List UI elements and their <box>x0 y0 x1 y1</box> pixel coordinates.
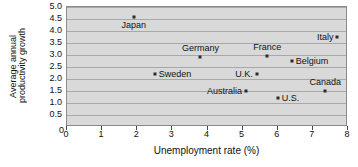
scatter-chart: Average annual productivity growth 0.51.… <box>0 0 358 167</box>
y-axis-tick-label: 4.0 <box>49 26 62 35</box>
y-axis-tick-label: 2.5 <box>49 62 62 71</box>
y-axis-tick-label: 0.5 <box>49 110 62 119</box>
gridline <box>67 103 346 104</box>
data-point-label: Japan <box>121 21 146 30</box>
y-axis-zero-label: 0 <box>36 126 64 135</box>
data-point <box>199 56 202 59</box>
x-axis-tick-label: 5 <box>239 130 244 139</box>
data-point-label: U.S. <box>282 94 300 103</box>
gridline <box>67 7 346 8</box>
y-axis-tick-label: 3.5 <box>49 38 62 47</box>
data-point <box>276 97 279 100</box>
x-axis-tick-label: 1 <box>99 130 104 139</box>
gridline <box>67 79 346 80</box>
data-point-label: Australia <box>207 87 242 96</box>
x-axis-tick-labels: 012345678 <box>66 130 347 142</box>
data-point <box>255 73 258 76</box>
x-axis-tick-label: 0 <box>63 130 68 139</box>
data-point <box>336 36 339 39</box>
plot-area: JapanSwedenGermanyAustraliaU.K.FranceU.S… <box>66 6 347 126</box>
y-axis-tick-label: 3.0 <box>49 50 62 59</box>
x-axis-tick-label: 4 <box>204 130 209 139</box>
data-point-label: Canada <box>309 78 341 87</box>
y-axis-tick-label: 4.5 <box>49 14 62 23</box>
data-point <box>324 90 327 93</box>
y-axis-tick-label: 5.0 <box>49 2 62 11</box>
data-point-label: Italy <box>317 33 334 42</box>
data-point-label: Belgium <box>296 57 329 66</box>
gridline <box>67 31 346 32</box>
x-axis-tick-label: 8 <box>344 130 349 139</box>
data-point <box>290 60 293 63</box>
data-point-label: U.K. <box>235 70 253 79</box>
y-axis-title-line-2: productivity growth <box>18 28 27 103</box>
data-point-label: Germany <box>182 44 219 53</box>
data-point <box>266 55 269 58</box>
x-axis-title: Unemployment rate (%) <box>66 146 347 156</box>
gridline <box>67 19 346 20</box>
y-axis-title: Average annual productivity growth <box>0 0 36 132</box>
x-axis-tick-label: 6 <box>274 130 279 139</box>
gridline <box>67 67 346 68</box>
y-axis-tick-label: 1.0 <box>49 98 62 107</box>
x-axis-tick-label: 2 <box>134 130 139 139</box>
data-point-label: France <box>253 43 281 52</box>
data-point <box>153 73 156 76</box>
data-point <box>132 15 135 18</box>
y-axis-tick-labels: 0.51.01.52.02.53.03.54.04.55.0 <box>36 6 64 126</box>
y-axis-tick-label: 2.0 <box>49 74 62 83</box>
x-axis-tick-label: 7 <box>309 130 314 139</box>
gridline <box>67 115 346 116</box>
data-point <box>245 90 248 93</box>
y-axis-tick-label: 1.5 <box>49 86 62 95</box>
x-axis-tick-label: 3 <box>169 130 174 139</box>
data-point-label: Sweden <box>159 70 192 79</box>
